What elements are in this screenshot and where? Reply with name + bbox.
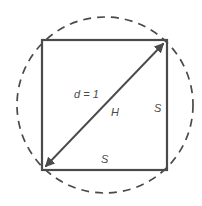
hypotenuse-label: H (111, 106, 119, 118)
diagram-canvas: d = 1 H S S (0, 0, 202, 206)
side-label-bottom: S (101, 153, 109, 165)
double-headed-diagonal-arrow (46, 44, 164, 167)
geometry-diagram: d = 1 H S S (0, 0, 202, 206)
side-label-right: S (154, 102, 162, 114)
diagonal-label: d = 1 (74, 88, 99, 100)
